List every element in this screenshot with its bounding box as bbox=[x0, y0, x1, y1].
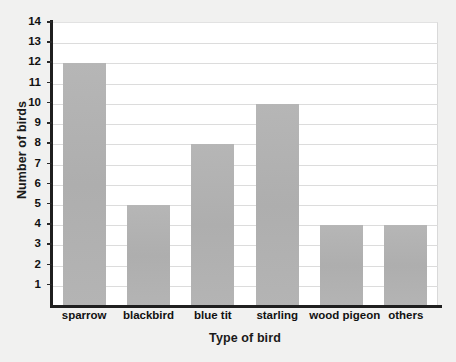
y-tick-label: 9 bbox=[17, 117, 41, 128]
y-tick-mark bbox=[47, 122, 52, 124]
y-tick-label: 8 bbox=[17, 137, 41, 148]
y-tick-mark bbox=[47, 163, 52, 165]
x-tick-label: blackbird bbox=[116, 309, 180, 321]
gridline bbox=[52, 205, 438, 206]
x-axis-title: Type of bird bbox=[52, 331, 438, 345]
gridline bbox=[52, 165, 438, 166]
y-tick-label: 11 bbox=[17, 77, 41, 88]
gridline bbox=[52, 124, 438, 125]
x-axis-line bbox=[50, 305, 442, 308]
y-tick-mark bbox=[47, 203, 52, 205]
x-tick-label: wood pigeon bbox=[309, 309, 373, 321]
y-tick-label: 13 bbox=[17, 36, 41, 47]
x-tick-label: blue tit bbox=[181, 309, 245, 321]
bar-blackbird bbox=[127, 205, 170, 306]
y-tick-label: 6 bbox=[17, 178, 41, 189]
gridline bbox=[52, 144, 438, 145]
y-tick-label: 1 bbox=[17, 279, 41, 290]
y-tick-label: 10 bbox=[17, 97, 41, 108]
x-tick-label: others bbox=[374, 309, 438, 321]
y-tick-mark bbox=[47, 41, 52, 43]
bar-chart: Number of birds Type of bird 14131211109… bbox=[0, 0, 456, 362]
y-tick-mark bbox=[47, 82, 52, 84]
gridline bbox=[52, 266, 438, 267]
y-tick-mark bbox=[47, 183, 52, 185]
plot-area bbox=[52, 22, 438, 305]
gridline bbox=[52, 286, 438, 287]
gridline bbox=[52, 225, 438, 226]
y-tick-mark bbox=[47, 61, 52, 63]
y-tick-mark bbox=[47, 223, 52, 225]
gridline bbox=[52, 63, 438, 64]
y-tick-mark bbox=[47, 243, 52, 245]
y-tick-mark bbox=[47, 284, 52, 286]
gridline bbox=[52, 185, 438, 186]
gridline bbox=[52, 245, 438, 246]
y-tick-label: 12 bbox=[17, 56, 41, 67]
y-tick-label: 14 bbox=[17, 16, 41, 27]
bar-starling bbox=[256, 104, 299, 306]
bar-blue-tit bbox=[191, 144, 234, 306]
bar-wood-pigeon bbox=[320, 225, 363, 306]
y-tick-label: 4 bbox=[17, 218, 41, 229]
y-tick-mark bbox=[47, 264, 52, 266]
x-tick-label: sparrow bbox=[52, 309, 116, 321]
bar-others bbox=[384, 225, 427, 306]
y-tick-label: 3 bbox=[17, 238, 41, 249]
gridline bbox=[52, 104, 438, 105]
x-tick-label: starling bbox=[245, 309, 309, 321]
gridline bbox=[52, 84, 438, 85]
y-tick-label: 7 bbox=[17, 158, 41, 169]
gridline bbox=[52, 43, 438, 44]
y-tick-mark bbox=[47, 21, 52, 23]
bar-sparrow bbox=[63, 63, 106, 306]
y-tick-label: 2 bbox=[17, 259, 41, 270]
y-tick-mark bbox=[47, 102, 52, 104]
y-tick-mark bbox=[47, 142, 52, 144]
y-tick-label: 5 bbox=[17, 198, 41, 209]
